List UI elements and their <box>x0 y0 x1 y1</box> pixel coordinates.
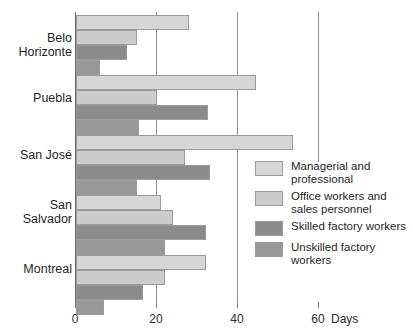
legend-item-unskilled: Unskilled factory workers <box>255 241 413 266</box>
gridline-40 <box>237 12 238 302</box>
bar-san-jose-office <box>76 150 185 165</box>
category-label-belo-horizonte: Belo Horizonte <box>0 31 72 59</box>
tick-mark-40 <box>237 302 238 308</box>
bar-puebla-managerial <box>76 75 256 90</box>
legend-swatch-skilled-icon <box>255 221 283 236</box>
tick-label-60: 60 <box>311 312 324 326</box>
bar-puebla-unskilled <box>76 120 139 135</box>
bar-puebla-skilled <box>76 105 208 120</box>
bar-belo-horizonte-unskilled <box>76 60 100 75</box>
tick-mark-20 <box>156 302 157 308</box>
legend-label-unskilled: Unskilled factory workers <box>291 241 375 266</box>
bar-san-salvador-skilled <box>76 225 206 240</box>
gridline-60 <box>318 12 319 162</box>
bar-san-salvador-managerial <box>76 195 161 210</box>
category-label-san-salvador: San Salvador <box>0 198 72 226</box>
bar-montreal-managerial <box>76 255 206 270</box>
legend-label-skilled: Skilled factory workers <box>291 220 406 233</box>
category-label-puebla: Puebla <box>0 91 72 105</box>
bar-montreal-skilled <box>76 285 143 300</box>
bar-belo-horizonte-skilled <box>76 45 127 60</box>
tick-mark-60 <box>318 302 319 308</box>
bar-san-jose-skilled <box>76 165 210 180</box>
category-label-montreal: Montreal <box>0 262 72 276</box>
bar-montreal-office <box>76 270 165 285</box>
bar-san-salvador-unskilled <box>76 240 165 255</box>
chart-legend: Managerial and professional Office worke… <box>255 160 413 271</box>
legend-swatch-office-icon <box>255 191 283 206</box>
tick-label-20: 20 <box>149 312 162 326</box>
bar-belo-horizonte-managerial <box>76 15 189 30</box>
category-label-san-jose: San José <box>0 148 72 162</box>
legend-label-managerial: Managerial and professional <box>291 160 370 185</box>
tick-label-40: 40 <box>230 312 243 326</box>
legend-item-managerial: Managerial and professional <box>255 160 413 185</box>
bar-san-salvador-office <box>76 210 173 225</box>
legend-label-office: Office workers and sales personnel <box>291 190 387 215</box>
bar-montreal-unskilled <box>76 300 104 315</box>
legend-swatch-unskilled-icon <box>255 242 283 257</box>
axis-unit-label: Days <box>331 312 358 326</box>
legend-item-office: Office workers and sales personnel <box>255 190 413 215</box>
bar-puebla-office <box>76 90 157 105</box>
legend-item-skilled: Skilled factory workers <box>255 220 413 236</box>
legend-swatch-managerial-icon <box>255 161 283 176</box>
bar-san-jose-unskilled <box>76 180 137 195</box>
bar-chart: Belo Horizonte Puebla San José San Salva… <box>0 0 413 335</box>
bar-belo-horizonte-office <box>76 30 137 45</box>
bar-san-jose-managerial <box>76 135 293 150</box>
